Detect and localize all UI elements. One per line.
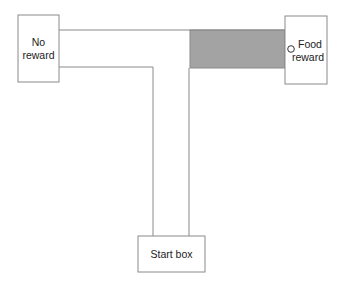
food-reward-label-line2: reward <box>288 51 328 64</box>
no-reward-label: No reward <box>18 36 59 62</box>
food-reward-label: Food reward <box>288 38 328 64</box>
no-reward-label-line2: reward <box>18 49 59 62</box>
shaded-goal-arm <box>190 30 285 68</box>
food-reward-label-line1: Food <box>288 38 328 51</box>
no-reward-label-line1: No <box>18 36 59 49</box>
start-box-label: Start box <box>138 248 205 261</box>
